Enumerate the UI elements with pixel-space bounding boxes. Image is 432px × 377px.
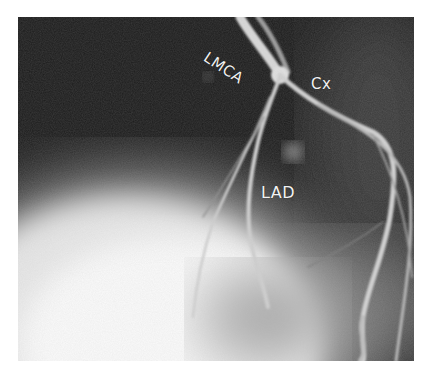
angiogram-figure: LMCA Cx LAD [18, 17, 414, 361]
label-cx: Cx [311, 77, 331, 92]
label-lad: LAD [261, 185, 295, 201]
